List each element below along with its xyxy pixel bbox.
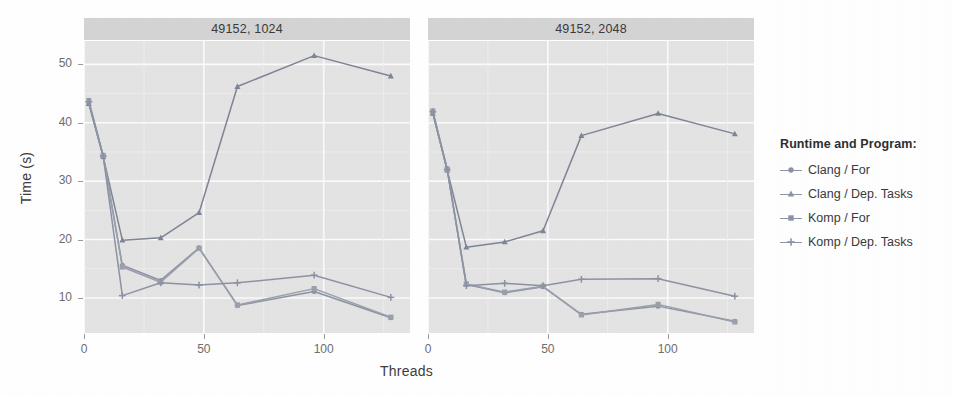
facet-plot-svg-1 [84,41,410,333]
legend: Runtime and Program: Clang / ForClang / … [778,0,953,395]
y-tick-mark [78,123,83,124]
plus-marker-icon [780,234,802,250]
legend-item-square[interactable]: Komp / For [780,207,870,229]
x-tick-label: 50 [189,342,219,356]
x-tick-mark [428,334,429,339]
square-marker-icon [780,210,802,226]
x-tick-mark [84,334,85,339]
x-tick-mark [324,334,325,339]
y-tick-mark [78,64,83,65]
faceted-line-chart: Time (s) Threads 1020304050 050100050100… [0,0,953,395]
x-tick-label: 0 [413,342,443,356]
legend-item-circle[interactable]: Clang / For [780,159,870,181]
x-tick-mark [204,334,205,339]
facet-panel-2 [428,41,754,333]
triangle-marker-icon [780,186,802,202]
legend-item-label: Komp / Dep. Tasks [808,235,913,249]
legend-item-triangle[interactable]: Clang / Dep. Tasks [780,183,913,205]
legend-title: Runtime and Program: [780,137,917,151]
panel-strip-1: 49152, 1024 [84,18,410,40]
legend-item-label: Komp / For [808,211,870,225]
x-tick-mark [548,334,549,339]
y-tick-label: 10 [46,290,72,304]
plot-area: Time (s) Threads 1020304050 050100050100… [0,0,775,395]
facet-panel-1 [84,41,410,333]
circle-marker-icon [780,162,802,178]
x-tick-label: 0 [69,342,99,356]
x-tick-mark [668,334,669,339]
legend-item-label: Clang / For [808,163,870,177]
panel-strip-label-1: 49152, 1024 [211,22,283,36]
y-tick-label: 30 [46,173,72,187]
y-tick-mark [78,240,83,241]
panel-strip-label-2: 49152, 2048 [555,22,627,36]
y-tick-label: 20 [46,232,72,246]
facet-plot-svg-2 [428,41,754,333]
y-axis-title: Time (s) [18,118,34,238]
y-tick-label: 40 [46,115,72,129]
legend-item-label: Clang / Dep. Tasks [808,187,913,201]
y-tick-mark [78,181,83,182]
x-tick-label: 50 [533,342,563,356]
series-triangle [430,110,738,249]
series-square [86,98,393,320]
series-circle [430,110,737,324]
x-tick-label: 100 [653,342,683,356]
x-tick-label: 100 [309,342,339,356]
panel-strip-2: 49152, 2048 [428,18,754,40]
x-axis-title: Threads [84,363,729,379]
legend-item-plus[interactable]: Komp / Dep. Tasks [780,231,913,253]
series-square [430,108,737,324]
series-triangle [86,52,394,242]
y-tick-mark [78,298,83,299]
y-tick-label: 50 [46,56,72,70]
